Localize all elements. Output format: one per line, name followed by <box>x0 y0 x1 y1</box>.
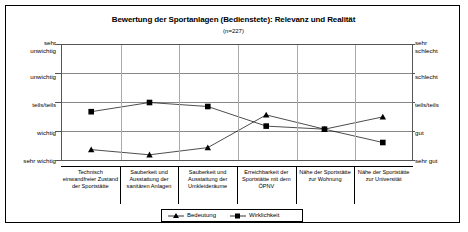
data-point-marker-square <box>263 123 269 129</box>
right-tick-label-3: teils/teils <box>415 101 467 109</box>
left-tick-label-3: teils/teils <box>8 101 56 109</box>
right-tick-label-5: sehr gut <box>415 157 467 165</box>
category-label: Technischeinwandfreier Zustandder Sports… <box>61 166 120 204</box>
category-separator <box>296 166 297 204</box>
left-tick-label-4: wichtig <box>8 129 56 137</box>
right-tick-label-2: schlecht <box>415 73 467 81</box>
plot-column-separator <box>238 45 239 160</box>
right-axis: sehrschlecht schlecht teils/teils gut se… <box>415 6 468 232</box>
right-tick-label-1: sehrschlecht <box>415 39 467 54</box>
plot-column-separator <box>355 45 356 160</box>
data-point-marker-triangle <box>205 144 211 150</box>
category-label: Sauberkeit undAusstattung dersanitären A… <box>120 166 179 204</box>
data-point-marker-square <box>205 104 211 110</box>
data-point-marker-square <box>88 109 94 115</box>
plot-column-separator <box>297 45 298 160</box>
category-label: Nähe der Sportstättezur Wohnung <box>296 166 355 204</box>
data-point-marker-square <box>322 126 328 132</box>
right-tick-label-4: gut <box>415 129 467 137</box>
chart-frame: Bewertung der Sportanlagen (Bedienstete)… <box>5 5 460 223</box>
category-separator <box>354 166 355 204</box>
data-point-marker-square <box>380 140 386 146</box>
left-tick-label-1: sehrunwichtig <box>8 39 56 54</box>
chart-title: Bewertung der Sportanlagen (Bedienstete)… <box>6 15 461 24</box>
plot-column-separator <box>121 45 122 160</box>
data-point-marker-triangle <box>380 114 386 120</box>
data-point-marker-square <box>147 100 153 106</box>
chart-legend: Bedeutung Wirklichkeit <box>161 209 303 222</box>
category-separator <box>120 166 121 204</box>
series-layer <box>62 45 412 160</box>
series-line-bedeutung <box>91 115 383 155</box>
left-tick-label-5: sehr wichtig <box>8 157 56 165</box>
data-point-marker-triangle <box>88 146 94 152</box>
legend-label-bedeutung: Bedeutung <box>187 212 216 218</box>
category-label: Erreichbarkeit derSportstätte mit demÖPN… <box>237 166 296 204</box>
legend-label-wirklichkeit: Wirklichkeit <box>249 212 279 218</box>
category-label: Sauberkeit undAusstattung derUmkleideräu… <box>178 166 237 204</box>
category-label: Nähe der Sportstättezur Universität <box>354 166 413 204</box>
category-separator <box>237 166 238 204</box>
data-point-marker-triangle <box>263 112 269 118</box>
plot-column-separator <box>179 45 180 160</box>
category-axis: Technischeinwandfreier Zustandder Sports… <box>61 166 413 204</box>
legend-markers <box>162 210 302 221</box>
category-separator <box>178 166 179 204</box>
series-line-wirklichkeit <box>91 103 383 143</box>
left-tick-label-2: unwichtig <box>8 73 56 81</box>
plot-area <box>61 44 413 161</box>
chart-subtitle: (n=227) <box>6 28 461 34</box>
left-axis: sehrunwichtig unwichtig teils/teils wich… <box>6 6 56 232</box>
